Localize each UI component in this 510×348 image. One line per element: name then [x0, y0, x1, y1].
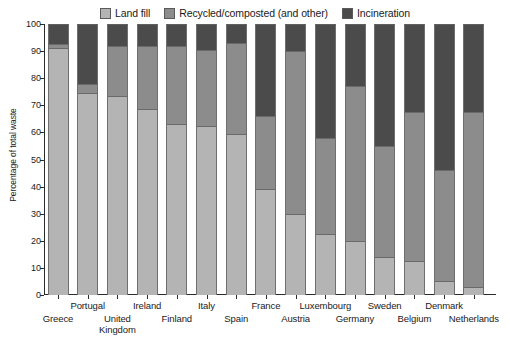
legend-item: Recycled/composted (and other) — [164, 7, 328, 19]
bar-segment — [196, 126, 217, 295]
bar-segment — [463, 287, 484, 295]
bar-segment — [345, 24, 366, 86]
legend-label: Land fill — [115, 7, 150, 19]
bar-segment — [404, 24, 425, 112]
bar-segment — [77, 24, 98, 84]
bar-ireland — [137, 24, 158, 295]
bar-segment — [166, 46, 187, 125]
bar-segment — [434, 24, 455, 170]
bar-segment — [374, 24, 395, 146]
bar-segment — [345, 86, 366, 240]
bar-segment — [226, 24, 247, 43]
bar-segment — [137, 24, 158, 46]
bar-segment — [166, 24, 187, 46]
bar-segment — [404, 261, 425, 295]
bar-netherlands — [463, 24, 484, 295]
x-axis-label: Belgium — [398, 313, 432, 324]
x-axis-label-line2: Kingdom — [99, 324, 136, 335]
bar-segment — [374, 146, 395, 257]
legend-swatch-icon — [342, 8, 353, 19]
x-axis-label: Luxembourg — [299, 300, 351, 311]
chart-legend: Land fillRecycled/composted (and other)I… — [0, 4, 510, 22]
bar-segment — [434, 170, 455, 281]
bar-portugal — [77, 24, 98, 295]
y-axis-tick-mark — [40, 24, 44, 25]
bar-denmark — [434, 24, 455, 295]
bar-segment — [434, 281, 455, 295]
bar-segment — [77, 93, 98, 295]
x-axis-label: Italy — [198, 300, 215, 311]
x-axis-label: Denmark — [425, 300, 463, 311]
bar-segment — [196, 50, 217, 126]
bar-segment — [107, 96, 128, 295]
plot-area: 1009080706050403020100 — [44, 24, 496, 295]
bar-segment — [137, 46, 158, 110]
x-axis-label: Greece — [43, 313, 74, 324]
legend-item: Incineration — [342, 7, 410, 19]
bar-segment — [255, 24, 276, 116]
x-axis-label: France — [251, 300, 280, 311]
bar-segment — [463, 24, 484, 112]
bar-segment — [137, 109, 158, 295]
y-axis-tick-mark — [40, 132, 44, 133]
bar-segment — [404, 112, 425, 261]
bar-segment — [48, 44, 69, 48]
y-axis-tick-label: 100 — [26, 19, 41, 29]
bar-segment — [285, 24, 306, 51]
bar-germany — [345, 24, 366, 295]
bar-united-kingdom — [107, 24, 128, 295]
bar-segment — [226, 134, 247, 295]
y-axis-line — [44, 24, 45, 295]
y-axis-tick-mark — [40, 51, 44, 52]
x-axis-label: UnitedKingdom — [99, 313, 136, 335]
bar-segment — [77, 84, 98, 93]
bar-segment — [315, 138, 336, 234]
bar-segment — [285, 214, 306, 295]
bar-sweden — [374, 24, 395, 295]
bar-segment — [196, 24, 217, 50]
y-axis-tick-mark — [40, 241, 44, 242]
bar-segment — [48, 24, 69, 44]
x-axis-label: Sweden — [368, 300, 402, 311]
legend-item: Land fill — [100, 7, 150, 19]
y-axis-tick-mark — [40, 160, 44, 161]
stacked-bar-chart: Land fillRecycled/composted (and other)I… — [0, 0, 510, 348]
bar-segment — [107, 46, 128, 96]
x-axis-label: Ireland — [133, 300, 161, 311]
x-axis-label: Portugal — [70, 300, 105, 311]
x-axis-label: Spain — [224, 313, 248, 324]
legend-swatch-icon — [164, 8, 175, 19]
bar-segment — [315, 234, 336, 295]
y-axis-tick-mark — [40, 78, 44, 79]
bar-segment — [255, 116, 276, 189]
bar-segment — [107, 24, 128, 46]
y-axis-title: Percentage of total waste — [8, 50, 18, 260]
x-axis-label: Finland — [162, 313, 192, 324]
x-axis-label: Austria — [281, 313, 310, 324]
bar-italy — [196, 24, 217, 295]
legend-swatch-icon — [100, 8, 111, 19]
legend-label: Incineration — [357, 7, 410, 19]
legend-label: Recycled/composted (and other) — [179, 7, 328, 19]
x-axis-labels: GreecePortugalUnitedKingdomIrelandFinlan… — [44, 299, 496, 347]
bar-segment — [463, 112, 484, 287]
bar-segment — [226, 43, 247, 134]
bar-segment — [374, 257, 395, 295]
bar-segment — [315, 24, 336, 138]
bar-segment — [345, 241, 366, 295]
y-axis-tick-mark — [40, 105, 44, 106]
y-axis-tick-mark — [40, 187, 44, 188]
bar-greece — [48, 24, 69, 295]
bar-spain — [226, 24, 247, 295]
y-axis-tick-mark — [40, 214, 44, 215]
y-axis-tick-mark — [40, 268, 44, 269]
bar-segment — [166, 124, 187, 295]
bar-segment — [48, 48, 69, 295]
bar-luxembourg — [315, 24, 336, 295]
bar-austria — [285, 24, 306, 295]
x-axis-label: Germany — [336, 313, 374, 324]
bar-finland — [166, 24, 187, 295]
y-axis-tick-mark — [40, 295, 44, 296]
bar-segment — [255, 189, 276, 295]
x-axis-label: Netherlands — [449, 313, 499, 324]
